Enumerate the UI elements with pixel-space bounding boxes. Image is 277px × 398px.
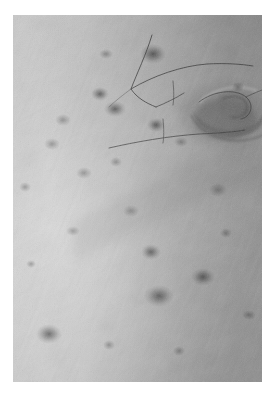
photograph-page	[0, 0, 277, 398]
film-grain	[13, 15, 262, 382]
skin-photograph	[13, 15, 262, 382]
photo-frame	[13, 15, 262, 382]
